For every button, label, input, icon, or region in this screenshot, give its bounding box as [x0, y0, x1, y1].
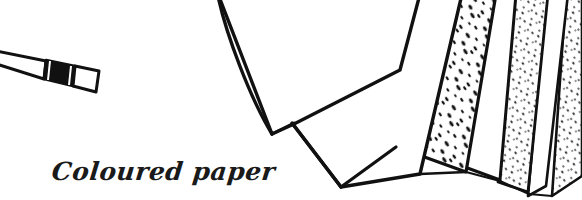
sheet-bottom-accent: [529, 194, 552, 196]
pencil-eraser: [73, 66, 99, 92]
caption-coloured-paper: Coloured paper: [50, 157, 276, 186]
pencil-body: [0, 49, 46, 79]
pencil-with-eraser: [0, 49, 99, 92]
sheet-bottom-accent: [420, 172, 466, 174]
illustration-canvas: Coloured paper: [0, 0, 582, 200]
